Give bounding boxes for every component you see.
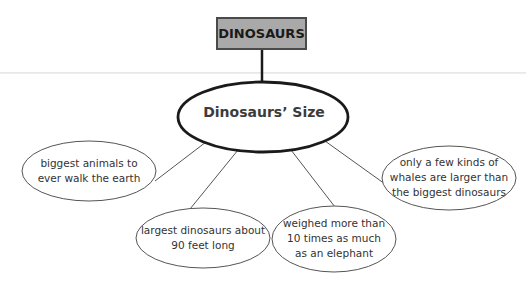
connector-left xyxy=(155,142,206,181)
concept-web-diagram: DINOSAURS Dinosaurs’ Size biggest animal… xyxy=(0,0,526,286)
connector-bottom-left xyxy=(190,150,238,209)
detail-text-left: biggest animals to ever walk the earth xyxy=(24,156,154,186)
diagram-title: DINOSAURS xyxy=(218,26,305,41)
title-box: DINOSAURS xyxy=(216,17,307,50)
detail-text-bottom-left: largest dinosaurs about 90 feet long xyxy=(136,223,270,253)
connector-right xyxy=(325,141,385,184)
detail-text-bottom-right: weighed more than 10 times as much as an… xyxy=(274,216,394,261)
connector-bottom-right xyxy=(291,150,335,207)
center-topic-label: Dinosaurs’ Size xyxy=(178,104,350,120)
detail-text-right: only a few kinds of whales are larger th… xyxy=(382,155,516,200)
